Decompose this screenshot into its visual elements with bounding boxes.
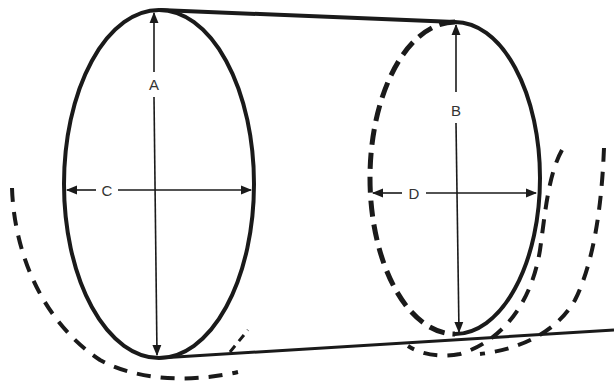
label-b: B xyxy=(451,102,461,119)
right-end-ellipse-dashed xyxy=(370,22,455,334)
cylinder-bottom-edge xyxy=(160,330,614,358)
dimension-b-lower xyxy=(456,123,459,332)
left-end-ellipse xyxy=(64,10,254,358)
right-dashed-sweep-outer xyxy=(480,148,604,354)
right-end-ellipse-solid xyxy=(455,22,540,334)
label-a: A xyxy=(149,76,159,93)
left-dashed-tick xyxy=(230,330,248,352)
label-d: D xyxy=(409,185,420,202)
label-c: C xyxy=(102,182,113,199)
cylinder-diagram: A C B D xyxy=(0,0,614,384)
cylinder-top-edge xyxy=(160,10,455,22)
